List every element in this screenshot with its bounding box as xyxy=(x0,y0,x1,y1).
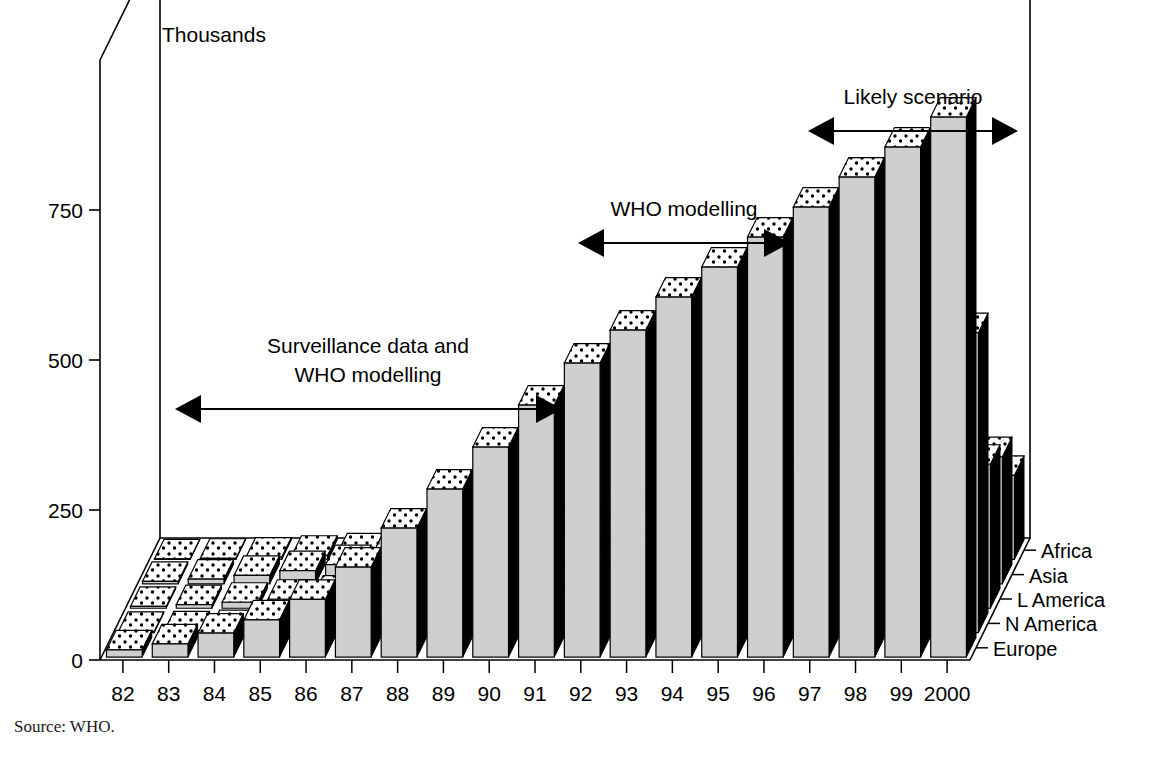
x-tick-label: 96 xyxy=(752,682,775,705)
x-tick-label: 90 xyxy=(478,682,501,705)
bar-side-face xyxy=(1002,437,1012,584)
bar-side-face xyxy=(737,248,747,658)
bar-front-face xyxy=(793,207,829,657)
bar xyxy=(473,428,518,658)
y-tick-label: 500 xyxy=(48,349,83,372)
series-label: L America xyxy=(1017,589,1106,611)
bar-side-face xyxy=(417,509,427,658)
annotation-label-surveillance-line1: Surveillance data and xyxy=(267,334,469,357)
bar-side-face xyxy=(875,158,885,658)
annotation-label-surveillance-line2: WHO modelling xyxy=(294,363,441,386)
bar xyxy=(381,509,426,658)
bar xyxy=(118,612,163,633)
bar-front-face xyxy=(885,147,921,657)
bar xyxy=(290,580,335,657)
bar xyxy=(152,624,197,657)
bar xyxy=(176,585,221,608)
bar-side-face xyxy=(600,344,610,658)
bar-front-face xyxy=(142,581,178,583)
bar-front-face xyxy=(176,605,212,609)
bar-front-face xyxy=(130,606,166,608)
bar-front-face xyxy=(610,330,646,657)
bar xyxy=(839,158,884,658)
x-tick-label: 87 xyxy=(340,682,363,705)
source-note: Source: WHO. xyxy=(14,717,115,737)
bar xyxy=(154,539,199,559)
bar-front-face xyxy=(931,117,967,657)
y-axis-title: Thousands xyxy=(162,23,266,46)
bar-side-face xyxy=(990,445,1000,609)
bar-side-face xyxy=(978,313,988,633)
three-d-bar-chart: 0250500750Thousands828384858687888990919… xyxy=(0,0,1152,712)
bar-front-face xyxy=(519,405,555,657)
x-tick-label: 86 xyxy=(294,682,317,705)
bar-front-face xyxy=(198,633,234,657)
bar xyxy=(427,470,472,658)
y-tick-label: 250 xyxy=(48,499,83,522)
bar-front-face xyxy=(702,267,738,657)
bar-front-face xyxy=(473,447,509,657)
x-axis-title: Year xyxy=(618,711,660,712)
bar-front-face xyxy=(381,528,417,657)
x-tick-label: 99 xyxy=(890,682,913,705)
bar xyxy=(702,248,747,658)
bar-top-face xyxy=(200,539,245,559)
series-label: Asia xyxy=(1029,565,1069,587)
bar xyxy=(198,614,243,658)
x-tick-label: 2000 xyxy=(924,682,971,705)
bar-side-face xyxy=(829,188,839,658)
annotation-label-likely-scenario-line1: Likely scenario xyxy=(844,85,983,108)
bar-side-face xyxy=(509,428,519,658)
bar-front-face xyxy=(839,177,875,657)
bar-front-face xyxy=(748,237,784,657)
bar-front-face xyxy=(152,644,188,657)
bar xyxy=(234,556,279,584)
bar xyxy=(130,587,175,608)
bar-front-face xyxy=(154,559,190,560)
bar xyxy=(519,386,564,658)
x-tick-label: 97 xyxy=(798,682,821,705)
bar xyxy=(188,560,233,584)
y-tick-label: 750 xyxy=(48,199,83,222)
bar-side-face xyxy=(646,311,656,658)
bar-side-face xyxy=(921,128,931,658)
bar xyxy=(610,311,655,658)
bar-front-face xyxy=(564,363,600,657)
bar xyxy=(748,218,793,658)
bar-side-face xyxy=(783,218,793,658)
bar xyxy=(244,600,289,657)
chart-figure: 0250500750Thousands828384858687888990919… xyxy=(0,0,1152,768)
x-tick-label: 95 xyxy=(706,682,729,705)
x-tick-label: 92 xyxy=(569,682,592,705)
bar xyxy=(200,539,245,560)
annotation-label-who-modelling-line1: WHO modelling xyxy=(610,197,757,220)
series-label: Africa xyxy=(1041,540,1093,562)
bar xyxy=(793,188,838,658)
bar-front-face xyxy=(427,489,463,657)
top-cut-text xyxy=(150,0,670,16)
x-tick-label: 93 xyxy=(615,682,638,705)
x-tick-label: 98 xyxy=(844,682,867,705)
x-tick-label: 91 xyxy=(523,682,546,705)
series-label: N America xyxy=(1005,613,1098,635)
x-tick-label: 88 xyxy=(386,682,409,705)
bar-front-face xyxy=(335,567,371,657)
bar-side-face xyxy=(554,386,564,658)
y-tick-label: 0 xyxy=(71,649,83,672)
bar-front-face xyxy=(656,297,692,657)
x-tick-label: 83 xyxy=(157,682,180,705)
x-tick-label: 85 xyxy=(249,682,272,705)
bar-front-face xyxy=(244,620,280,657)
bar-side-face xyxy=(966,98,976,658)
bar-side-face xyxy=(692,278,702,658)
bar xyxy=(656,278,701,658)
x-tick-label: 89 xyxy=(432,682,455,705)
bar-side-face xyxy=(463,470,473,658)
bar-top-face xyxy=(118,612,163,632)
series-label: Europe xyxy=(993,638,1058,660)
x-tick-label: 82 xyxy=(111,682,134,705)
bar-front-face xyxy=(188,579,224,584)
bar xyxy=(142,562,187,584)
bar-top-face xyxy=(154,539,199,559)
bar xyxy=(885,128,930,658)
